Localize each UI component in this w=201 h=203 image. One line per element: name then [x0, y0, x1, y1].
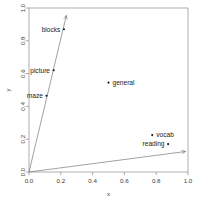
- x-axis-title: x: [107, 190, 111, 197]
- data-point-maze: [45, 95, 47, 97]
- x-tick-label: 0.0: [25, 177, 34, 184]
- y-tick-label: 0.0: [19, 167, 26, 176]
- x-tick-label: 0.8: [152, 177, 161, 184]
- data-point-reading: [167, 143, 169, 145]
- y-tick-label: 1.0: [19, 3, 26, 12]
- x-tick-label: 0.2: [56, 177, 65, 184]
- vector-arrows: [29, 15, 186, 172]
- chart-figure: 0.00.20.40.60.81.00.00.20.40.60.81.0 blo…: [0, 0, 201, 203]
- vector-1-arrowhead: [66, 15, 67, 19]
- x-tick-label: 1.0: [184, 177, 193, 184]
- plot-box: [29, 8, 188, 172]
- y-tick-label: 0.8: [19, 36, 26, 45]
- x-tick-label: 0.4: [88, 177, 97, 184]
- point-label-general: general: [113, 79, 136, 87]
- point-label-vocab: vocab: [156, 131, 174, 138]
- y-axis-title: y: [4, 88, 11, 92]
- vector-2: [29, 152, 186, 173]
- point-label-maze: maze: [27, 92, 43, 99]
- point-labels: blockspicturemazegeneralvocabreading: [27, 26, 174, 149]
- y-tick-label: 0.6: [19, 69, 26, 78]
- vector-2-arrowhead: [182, 150, 186, 151]
- y-tick-label: 0.4: [19, 102, 26, 111]
- data-point-general: [107, 82, 109, 84]
- data-point-blocks: [63, 28, 65, 30]
- data-point-picture: [53, 69, 55, 71]
- data-point-vocab: [151, 134, 153, 136]
- point-label-picture: picture: [30, 67, 50, 75]
- data-points: [45, 28, 169, 145]
- point-label-blocks: blocks: [42, 26, 61, 33]
- y-tick-label: 0.2: [19, 134, 26, 143]
- point-label-reading: reading: [143, 140, 165, 148]
- plot-frame: [29, 8, 188, 172]
- scatter-plot: 0.00.20.40.60.81.00.00.20.40.60.81.0 blo…: [0, 0, 201, 203]
- x-tick-label: 0.6: [120, 177, 129, 184]
